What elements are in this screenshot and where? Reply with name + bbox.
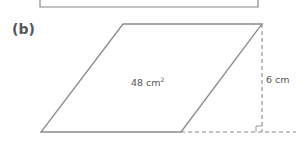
parallelogram-diagram bbox=[0, 0, 302, 143]
height-label: 6 cm bbox=[266, 74, 290, 85]
previous-figure-box-edge bbox=[40, 0, 258, 7]
area-value: 48 cm bbox=[131, 77, 161, 88]
area-exponent: 2 bbox=[161, 76, 165, 83]
part-label: (b) bbox=[12, 21, 35, 37]
area-label: 48 cm2 bbox=[131, 76, 164, 88]
right-angle-marker bbox=[256, 126, 262, 132]
